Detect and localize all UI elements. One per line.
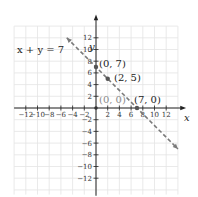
point-marker [94,65,98,69]
point-label-0-0: (0, 0) [99,94,126,105]
point-marker [106,77,110,81]
x-tick-label: 10 [150,111,159,119]
y-tick-label: −12 [77,175,92,183]
x-axis-arrow-icon [180,106,186,110]
point-marker [94,106,98,110]
y-tick-label: −2 [82,116,92,124]
x-tick-label: 12 [162,111,171,119]
point-marker [135,106,139,110]
y-tick-label: −10 [77,163,92,171]
coordinate-plane: −12−10−8−6−4−224681012−12−10−8−6−4−22468… [0,0,198,197]
x-tick-label: −8 [44,111,54,119]
x-tick-label: −6 [56,111,67,119]
x-tick-label: 4 [117,111,122,119]
axes [14,14,186,195]
equation-label: x + y = 7 [17,44,64,55]
x-tick-label: 2 [105,111,109,119]
y-tick-label: 4 [88,81,93,89]
y-axis-label: y [88,41,95,52]
y-tick-label: 6 [88,69,93,77]
x-tick-label: −10 [30,111,45,119]
point-label-2-5: (2, 5) [114,72,141,83]
x-axis-label: x [184,112,190,123]
x-tick-label: 6 [129,111,134,119]
y-axis-arrow-icon [94,14,98,20]
x-tick-label: −4 [67,111,78,119]
y-tick-label: −4 [82,128,93,136]
y-tick-label: −8 [82,151,92,159]
y-tick-label: −6 [82,140,93,148]
point-label-0-7: (0, 7) [99,58,126,69]
point-label-7-0: (7, 0) [134,94,161,105]
y-tick-label: 2 [88,93,92,101]
